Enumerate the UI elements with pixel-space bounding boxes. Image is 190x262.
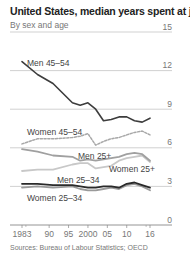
x-tick-label: 1983 (13, 229, 32, 239)
source-note: Sources: Bureau of Labour Statistics; OE… (10, 244, 148, 251)
y-axis-labels: 03691215 (163, 22, 173, 225)
y-tick-label: 9 (167, 99, 172, 109)
x-tick-label: 10 (122, 229, 132, 239)
y-tick-label: 6 (167, 137, 172, 147)
y-tick-label: 3 (167, 176, 172, 186)
y-tick-label: 12 (163, 60, 173, 70)
y-tick-label: 15 (163, 22, 173, 32)
x-tick-label: 05 (103, 229, 113, 239)
y-tick-label: 0 (167, 215, 172, 225)
x-axis: 198390952000051016 (13, 225, 155, 239)
series-label: Women 25–34 (27, 193, 82, 203)
series-label: Men 45–54 (27, 58, 70, 68)
x-tick-label: 16 (145, 229, 155, 239)
x-tick-label: 90 (44, 229, 54, 239)
series-label: Men 25+ (78, 151, 111, 161)
series-label: Men 25–34 (57, 175, 100, 185)
x-tick-label: 95 (64, 229, 74, 239)
series-label: Women 45–54 (27, 127, 82, 137)
x-tick-label: 2000 (78, 229, 97, 239)
series-label: Women 25+ (109, 164, 155, 174)
line-chart: 03691215 198390952000051016 Men 45–54Wom… (0, 0, 190, 262)
